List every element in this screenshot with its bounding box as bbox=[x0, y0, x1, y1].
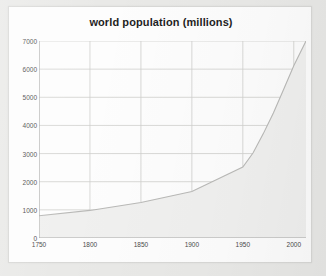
x-tick-label: 1900 bbox=[185, 241, 199, 248]
x-tick-label: 1850 bbox=[134, 241, 148, 248]
chart-title: world population (millions) bbox=[9, 16, 312, 28]
y-tick-label: 1000 bbox=[8, 206, 37, 213]
y-axis-tick-labels: 01000200030004000500060007000 bbox=[9, 41, 37, 238]
y-tick-label: 6000 bbox=[8, 66, 37, 73]
chart-svg bbox=[39, 41, 306, 238]
y-tick-label: 2000 bbox=[8, 178, 37, 185]
plot-area bbox=[39, 41, 306, 238]
x-tick-label: 2000 bbox=[287, 241, 301, 248]
x-tick-label: 1950 bbox=[236, 241, 250, 248]
screenshot-root: world population (millions) 010002000300… bbox=[0, 0, 326, 276]
x-tick-label: 1800 bbox=[83, 241, 97, 248]
area-fill bbox=[39, 41, 306, 238]
y-tick-label: 5000 bbox=[8, 94, 37, 101]
x-axis-tick-labels: 175018001850190019502000 bbox=[39, 241, 306, 257]
chart-card: world population (millions) 010002000300… bbox=[8, 6, 312, 263]
x-tick-label: 1750 bbox=[32, 241, 46, 248]
y-tick-label: 3000 bbox=[8, 150, 37, 157]
y-tick-label: 4000 bbox=[8, 122, 37, 129]
y-tick-label: 7000 bbox=[8, 38, 37, 45]
